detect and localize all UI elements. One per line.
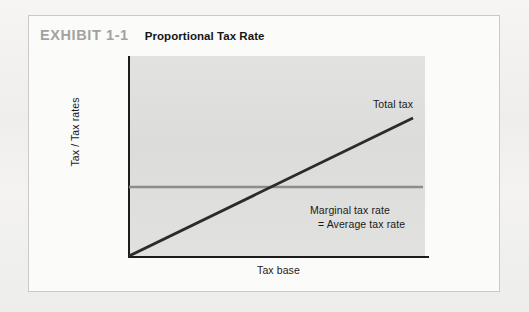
y-axis-title: Tax / Tax rates bbox=[69, 77, 81, 187]
series-label-average-tax-rate: = Average tax rate bbox=[310, 218, 405, 232]
series-label-marginal-tax-rate: Marginal tax rate bbox=[310, 204, 390, 216]
chart-figure: Tax / Tax rates Tax base Total tax Margi… bbox=[29, 16, 501, 293]
exhibit-frame: EXHIBIT 1-1 Proportional Tax Rate Tax / … bbox=[28, 15, 500, 292]
x-axis-title: Tax base bbox=[128, 264, 429, 276]
series-label-marginal-average: Marginal tax rate = Average tax rate bbox=[310, 204, 405, 231]
series-label-total-tax: Total tax bbox=[373, 98, 413, 110]
chart-series-layer bbox=[29, 16, 501, 293]
